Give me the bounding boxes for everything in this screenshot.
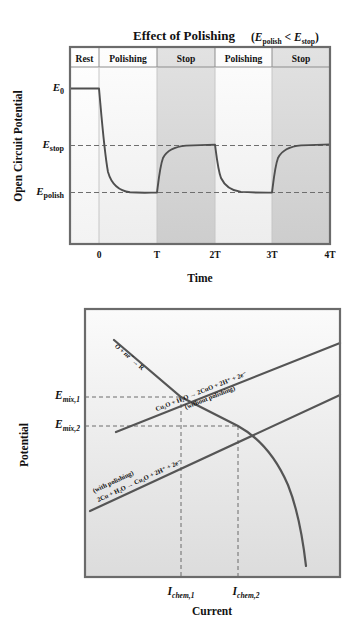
top-chart: Effect of Polishing (Epolish < Estop) Op… bbox=[12, 28, 336, 284]
ytick-e0: E0 bbox=[52, 81, 64, 96]
top-chart-title: Effect of Polishing bbox=[133, 28, 235, 43]
svg-text:(Epolish < Estop): (Epolish < Estop) bbox=[251, 31, 319, 46]
figure-svg: Effect of Polishing (Epolish < Estop) Op… bbox=[0, 0, 364, 628]
top-chart-yticks: E0 Estop Epolish bbox=[35, 81, 64, 200]
band-label-stop-1: Stop bbox=[177, 54, 195, 64]
top-chart-xticks: 0 T 2T 3T 4T bbox=[97, 250, 337, 260]
xtick-i-chem-2: Ichem,2 bbox=[232, 585, 260, 600]
xtick-2t: 2T bbox=[209, 250, 221, 260]
band-label-stop-2: Stop bbox=[292, 54, 310, 64]
top-chart-subtitle: (Epolish < Estop) bbox=[251, 31, 319, 46]
xtick-4t: 4T bbox=[324, 250, 336, 260]
xtick-0: 0 bbox=[97, 250, 102, 260]
bottom-chart-ylabel: Potential bbox=[18, 423, 30, 467]
bottom-chart-yticks: Emix,1 Emix,2 bbox=[54, 389, 80, 433]
band-label-rest: Rest bbox=[76, 54, 95, 64]
subtitle-e-polish-sub: polish bbox=[263, 37, 283, 46]
subtitle-e-stop-sub: stop bbox=[302, 37, 315, 46]
ytick-e-mix-1: Emix,1 bbox=[54, 389, 80, 404]
figure-container: Effect of Polishing (Epolish < Estop) Op… bbox=[0, 0, 364, 628]
bottom-chart-xlabel: Current bbox=[192, 605, 232, 617]
ytick-e-stop: Estop bbox=[41, 138, 64, 153]
subtitle-close-paren: ) bbox=[315, 31, 319, 44]
band-label-polishing-2: Polishing bbox=[225, 54, 263, 64]
ytick-e-polish: Epolish bbox=[35, 185, 64, 200]
bottom-chart-xticks: Ichem,1 Ichem,2 bbox=[167, 585, 260, 600]
xtick-i-chem-1: Ichem,1 bbox=[167, 585, 195, 600]
subtitle-relation: < bbox=[282, 31, 294, 43]
bottom-chart: Potential O + ne− → R Cu₂O + H₂O → 2CuO … bbox=[18, 309, 340, 617]
subtitle-e-stop-base: E bbox=[293, 31, 302, 43]
xtick-3t: 3T bbox=[266, 250, 278, 260]
ytick-e-mix-2: Emix,2 bbox=[54, 418, 80, 433]
subtitle-e-polish-base: E bbox=[254, 31, 263, 43]
band-label-polishing-1: Polishing bbox=[109, 54, 147, 64]
xtick-t: T bbox=[154, 250, 161, 260]
top-chart-xlabel: Time bbox=[187, 272, 212, 284]
top-chart-ylabel: Open Circuit Potential bbox=[12, 90, 25, 202]
